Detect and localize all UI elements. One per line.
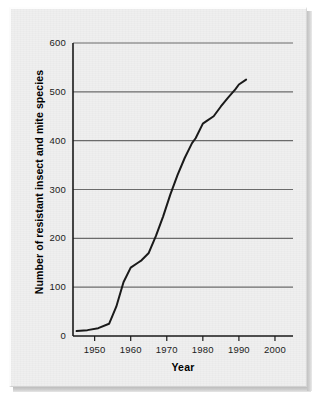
y-tick-label: 600 bbox=[20, 37, 66, 48]
y-axis-title: Number of resistant insect and mite spec… bbox=[33, 48, 45, 316]
data-series-line bbox=[77, 80, 247, 331]
x-axis-title: Year bbox=[73, 361, 293, 373]
gridlines-group bbox=[73, 43, 293, 287]
plot-area: 0100200300400500600 19501960197019801990… bbox=[0, 0, 317, 401]
x-tick-label: 2000 bbox=[253, 344, 297, 355]
y-tick-label: 0 bbox=[20, 330, 66, 341]
figure-container: 0100200300400500600 19501960197019801990… bbox=[0, 0, 317, 401]
